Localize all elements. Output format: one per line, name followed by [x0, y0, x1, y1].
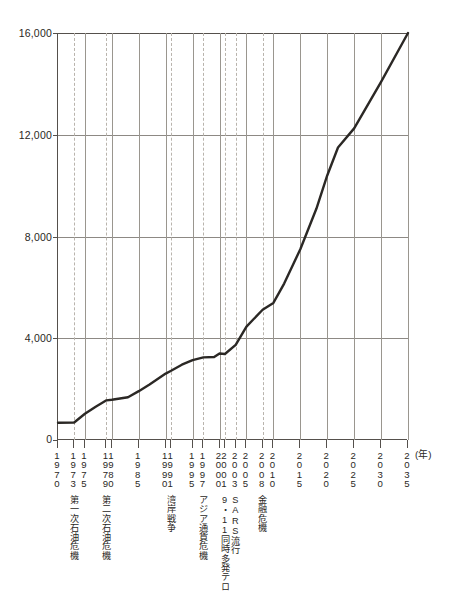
x-tick: [272, 440, 273, 448]
gridline-vertical: [408, 33, 409, 440]
x-axis-year-label: 2 0 0 3: [229, 451, 240, 489]
x-tick: [111, 440, 112, 448]
x-axis-year-label: 2 0 2 0: [321, 451, 332, 489]
event-annotation: 湾岸戦争: [165, 495, 174, 532]
event-annotation: 金融危機: [257, 495, 266, 532]
x-tick: [353, 440, 354, 448]
y-axis-label: 8,000: [0, 231, 52, 243]
x-tick: [73, 440, 74, 448]
event-annotation: SARS流行: [230, 495, 239, 555]
x-tick: [105, 440, 106, 448]
event-annotation: 9・11同時多発テロ: [219, 495, 228, 591]
x-tick: [165, 440, 166, 448]
x-axis-year-label: 1 9 7 3: [68, 451, 79, 489]
chart-container: 4,0008,00012,00016,000 1 9 7 01 9 7 31 9…: [0, 0, 467, 597]
x-axis-year-label: 2 0 0 8: [256, 451, 267, 489]
x-tick: [138, 440, 139, 448]
y-axis-label: 16,000: [0, 27, 52, 39]
y-axis-zero-label: 0: [0, 433, 52, 445]
x-axis-year-label: 1 9 9 1: [165, 451, 176, 489]
x-axis-year-label: 1 9 8 0: [105, 451, 116, 489]
x-axis: 1 9 7 01 9 7 31 9 7 51 9 7 91 9 8 01 9 8…: [57, 440, 407, 590]
x-tick: [84, 440, 85, 448]
x-tick: [57, 440, 58, 448]
x-tick: [407, 440, 408, 448]
x-axis-year-label: 1 9 8 5: [132, 451, 143, 489]
y-axis: 4,0008,00012,00016,000: [0, 0, 52, 597]
x-axis-year-label: 2 0 2 5: [348, 451, 359, 489]
x-axis-year-label: 1 9 7 0: [52, 451, 63, 489]
x-tick: [235, 440, 236, 448]
x-axis-year-label: 2 0 3 0: [375, 451, 386, 489]
x-tick: [192, 440, 193, 448]
x-tick: [170, 440, 171, 448]
x-axis-year-label: 1 9 9 5: [186, 451, 197, 489]
x-tick: [299, 440, 300, 448]
x-axis-year-label: 2 0 1 5: [294, 451, 305, 489]
x-axis-year-label: 2 0 0 5: [240, 451, 251, 489]
event-annotation: 第二次石油危機: [101, 495, 110, 560]
x-axis-year-label: 1 9 9 7: [197, 451, 208, 489]
x-tick: [262, 440, 263, 448]
x-tick: [202, 440, 203, 448]
plot-area: [57, 33, 407, 440]
event-annotation: アジア通貨危機: [198, 495, 207, 560]
x-tick: [326, 440, 327, 448]
x-axis-year-label: 2 0 0 1: [218, 451, 229, 489]
y-axis-label: 12,000: [0, 129, 52, 141]
x-tick: [380, 440, 381, 448]
y-axis-label: 4,000: [0, 332, 52, 344]
x-axis-year-label: 2 0 1 0: [267, 451, 278, 489]
series-line: [58, 33, 408, 440]
x-axis-year-label: 2 0 3 5: [402, 451, 413, 489]
x-tick: [219, 440, 220, 448]
x-axis-unit-label: (年): [415, 447, 432, 461]
x-tick: [245, 440, 246, 448]
event-annotation: 第一次石油危機: [68, 495, 77, 560]
x-tick: [224, 440, 225, 448]
x-axis-year-label: 1 9 7 5: [78, 451, 89, 489]
